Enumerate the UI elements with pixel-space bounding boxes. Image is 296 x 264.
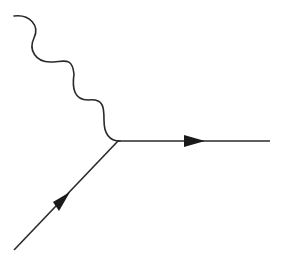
outgoing-arrow-icon (184, 135, 205, 147)
photon-line (14, 16, 120, 141)
feynman-diagram (0, 0, 296, 264)
incoming-arrow-icon (53, 192, 70, 211)
